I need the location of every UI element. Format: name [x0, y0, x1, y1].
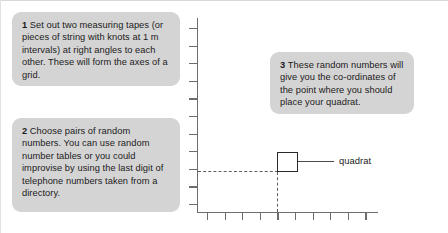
quadrat-leader-line — [298, 161, 334, 162]
x-axis-tick — [207, 212, 208, 220]
callout-step-3-number: 3 — [280, 60, 288, 70]
y-axis-tick — [189, 134, 197, 135]
figure-canvas: 1 Set out two measuring tapes (or pieces… — [0, 0, 448, 233]
quadrat-square — [277, 152, 298, 172]
callout-step-2-number: 2 — [22, 126, 30, 136]
x-axis-tick — [260, 212, 261, 220]
x-axis-tick — [225, 212, 226, 220]
y-axis-tick — [189, 28, 197, 29]
y-axis-tick — [189, 81, 197, 82]
y-axis-tick — [189, 151, 197, 152]
x-axis-tick — [330, 212, 331, 220]
y-axis-tick — [189, 204, 197, 205]
callout-step-1: 1 Set out two measuring tapes (or pieces… — [12, 12, 180, 86]
scan-edge-top — [0, 0, 448, 1]
x-axis-tick — [365, 212, 366, 220]
quadrat-guide-vertical — [277, 172, 278, 212]
callout-step-2: 2 Choose pairs of random numbers. You ca… — [12, 118, 180, 212]
x-axis-tick — [295, 212, 296, 220]
x-axis-tick — [242, 212, 243, 220]
callout-step-3: 3 These random numbers will give you the… — [270, 52, 414, 114]
y-axis-tick — [189, 169, 197, 170]
x-axis-tick — [348, 212, 349, 220]
y-axis-tick — [189, 116, 197, 117]
y-axis-tick — [189, 63, 197, 64]
callout-step-3-text: These random numbers will give you the c… — [280, 60, 403, 107]
x-axis-tick — [277, 212, 278, 220]
quadrat-label: quadrat — [339, 155, 371, 166]
y-axis-tick — [189, 46, 197, 47]
y-axis-line — [197, 18, 198, 213]
y-axis-tick — [189, 186, 197, 187]
x-axis-tick — [313, 212, 314, 220]
quadrat-guide-horizontal — [198, 171, 278, 172]
scan-edge-left — [0, 0, 1, 233]
callout-step-1-number: 1 — [22, 20, 30, 30]
y-axis-tick — [189, 98, 197, 99]
callout-step-2-text: Choose pairs of random numbers. You can … — [22, 126, 163, 198]
callout-step-1-text: Set out two measuring tapes (or pieces o… — [22, 20, 168, 80]
